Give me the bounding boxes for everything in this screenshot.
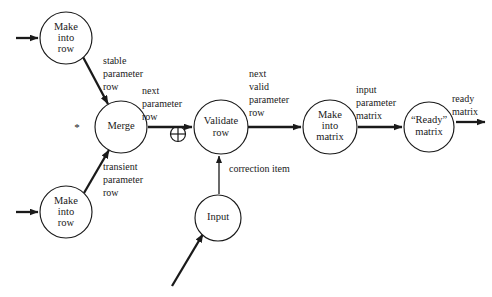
data-flow-diagram: Make into row Merge Make into row Valida… xyxy=(0,0,492,297)
label-line1: transient xyxy=(103,161,138,172)
node-make-into-row-top[interactable]: Make into row xyxy=(40,12,92,64)
node-label-line1: Merge xyxy=(107,120,135,131)
label-line3: row xyxy=(103,187,119,198)
label-line1: stable xyxy=(103,55,127,66)
label-line3: row xyxy=(142,111,158,122)
label-line1: next xyxy=(249,68,266,79)
node-label-line1: Make xyxy=(318,109,342,120)
node-label-line3: row xyxy=(58,43,75,54)
node-merge[interactable]: Merge xyxy=(95,101,147,153)
label-correction-item: correction item xyxy=(229,163,290,174)
node-input[interactable]: Input xyxy=(195,195,241,241)
node-label-line2: into xyxy=(322,120,338,131)
label-line1: correction item xyxy=(229,163,290,174)
label-ready-matrix: ready matrix xyxy=(452,93,478,117)
node-ready-matrix[interactable]: “Ready” matrix xyxy=(404,102,454,152)
node-label-line1: Make xyxy=(54,21,78,32)
diagram-canvas: Make into row Merge Make into row Valida… xyxy=(0,0,492,297)
adder-symbol xyxy=(171,127,186,142)
node-label-line1: Make xyxy=(54,195,78,206)
label-line1: next xyxy=(142,85,159,96)
input-arrow-diagonal xyxy=(172,234,203,286)
label-line1: ready xyxy=(452,93,474,104)
node-make-into-matrix[interactable]: Make into matrix xyxy=(303,100,357,154)
label-transient-parameter-row: transient parameter row xyxy=(103,161,144,198)
node-label-line2: row xyxy=(213,127,230,138)
node-validate-row[interactable]: Validate row xyxy=(194,100,248,154)
label-line3: row xyxy=(103,81,119,92)
label-line3: parameter xyxy=(249,94,290,105)
node-label-line2: matrix xyxy=(415,126,443,137)
label-line4: row xyxy=(249,107,265,118)
label-next-valid-parameter-row: next valid parameter row xyxy=(249,68,290,118)
node-make-into-row-bottom[interactable]: Make into row xyxy=(40,186,92,238)
merge-star-symbol: * xyxy=(74,121,80,133)
label-line2: parameter xyxy=(103,68,144,79)
node-label-line2: into xyxy=(58,32,74,43)
asterisk-icon: * xyxy=(74,121,80,133)
node-label-line3: matrix xyxy=(316,131,344,142)
node-label-line2: into xyxy=(58,206,74,217)
node-label-line1: “Ready” xyxy=(411,114,447,125)
label-next-parameter-row: next parameter row xyxy=(142,85,183,122)
label-line1: input xyxy=(356,84,377,95)
label-line2: parameter xyxy=(103,174,144,185)
node-label-line1: Validate xyxy=(204,115,239,126)
label-line2: parameter xyxy=(142,98,183,109)
label-line2: valid xyxy=(249,81,269,92)
label-input-parameter-matrix: input parameter matrix xyxy=(356,84,397,121)
label-line2: matrix xyxy=(452,106,478,117)
node-label-line1: Input xyxy=(207,211,229,222)
label-line3: matrix xyxy=(356,110,382,121)
label-stable-parameter-row: stable parameter row xyxy=(103,55,144,92)
label-line2: parameter xyxy=(356,97,397,108)
node-label-line3: row xyxy=(58,217,75,228)
